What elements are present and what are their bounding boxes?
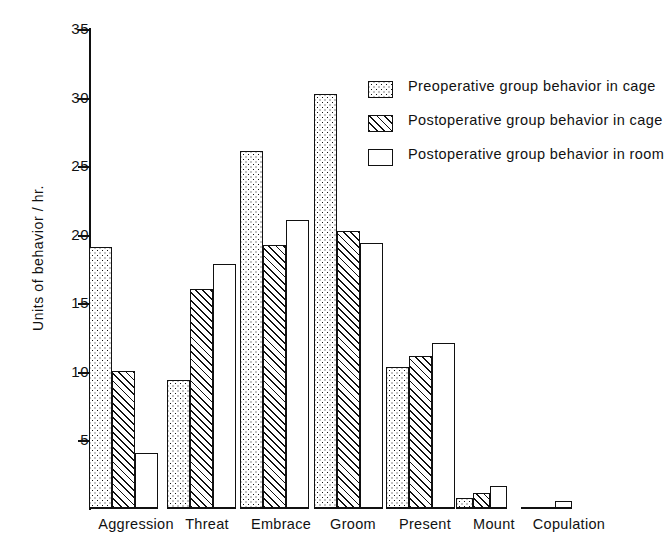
bar-threat-postoperative-room	[213, 264, 236, 508]
baseline-copulation	[521, 507, 572, 509]
bar-embrace-postoperative-room	[286, 220, 309, 508]
y-tick-label-5: 5	[49, 433, 89, 447]
bar-aggression-preoperative-cage	[89, 247, 112, 508]
bar-threat-postoperative-cage	[190, 289, 213, 508]
bar-groom-postoperative-room	[360, 243, 383, 508]
y-axis-title: Units of behavior / hr.	[30, 128, 46, 388]
baseline-threat	[167, 507, 236, 509]
baseline-groom	[314, 507, 383, 509]
y-tick-label-15: 15	[49, 296, 89, 310]
bar-present-preoperative-cage	[386, 367, 409, 508]
y-tick-label-35: 35	[49, 22, 89, 36]
bar-embrace-preoperative-cage	[240, 151, 263, 508]
legend-label-preoperative-cage: Preoperative group behavior in cage	[408, 78, 656, 94]
legend-label-postoperative-room: Postoperative group behavior in room	[408, 146, 664, 162]
baseline-aggression	[89, 507, 158, 509]
bar-mount-postoperative-cage	[473, 493, 490, 508]
legend-label-postoperative-cage: Postoperative group behavior in cage	[408, 112, 663, 128]
empty-swatch-icon	[368, 149, 393, 166]
hatch-swatch-icon	[368, 115, 393, 132]
baseline-present	[386, 507, 455, 509]
bar-mount-postoperative-room	[490, 486, 507, 508]
bar-aggression-postoperative-room	[135, 453, 158, 508]
bar-threat-preoperative-cage	[167, 380, 190, 508]
y-tick-label-30: 30	[49, 91, 89, 105]
bar-groom-preoperative-cage	[314, 94, 337, 508]
y-tick-label-20: 20	[49, 228, 89, 242]
bar-present-postoperative-room	[432, 343, 455, 508]
bar-aggression-postoperative-cage	[112, 371, 135, 508]
plot-area	[89, 28, 649, 508]
y-tick-label-10: 10	[49, 365, 89, 379]
bar-embrace-postoperative-cage	[263, 245, 286, 508]
checkered-swatch-icon	[368, 81, 393, 98]
baseline-embrace	[240, 507, 309, 509]
y-tick-label-25: 25	[49, 159, 89, 173]
x-axis-label-copulation: Copulation	[509, 516, 629, 532]
baseline-mount	[456, 507, 507, 509]
bar-groom-postoperative-cage	[337, 231, 360, 508]
bar-present-postoperative-cage	[409, 356, 432, 508]
